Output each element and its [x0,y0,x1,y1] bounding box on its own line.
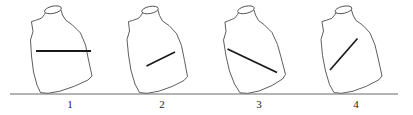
bottle-2-caption: 2 [159,98,165,110]
bottle-4-caption: 4 [353,98,359,110]
bottle-1-caption: 1 [67,98,73,110]
water-level-figure: 1 2 3 4 [0,0,413,115]
figure-canvas: 1 2 3 4 [0,0,413,115]
bottle-3-caption: 3 [256,98,262,110]
bottle-4-body [321,9,382,94]
bottle-2-body [127,9,188,93]
